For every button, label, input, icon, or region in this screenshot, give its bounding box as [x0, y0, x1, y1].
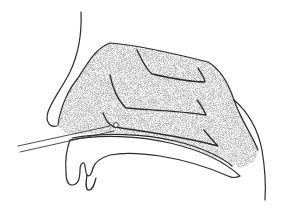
nasal-cavity-illustration [0, 0, 283, 208]
upper-lip [66, 140, 93, 185]
lower-lip [86, 175, 96, 190]
nasal-cavity-stippled [58, 43, 258, 168]
